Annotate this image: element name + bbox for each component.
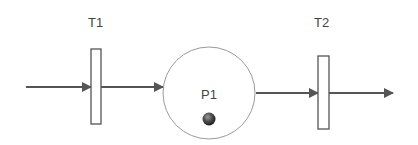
place-p1-label: P1 xyxy=(201,88,217,101)
token-icon xyxy=(203,113,216,126)
transition-t1 xyxy=(91,49,101,124)
transition-t1-label: T1 xyxy=(88,16,103,29)
transition-t2-label: T2 xyxy=(314,16,329,29)
petri-net-diagram xyxy=(0,0,418,145)
transition-t2 xyxy=(318,56,329,129)
